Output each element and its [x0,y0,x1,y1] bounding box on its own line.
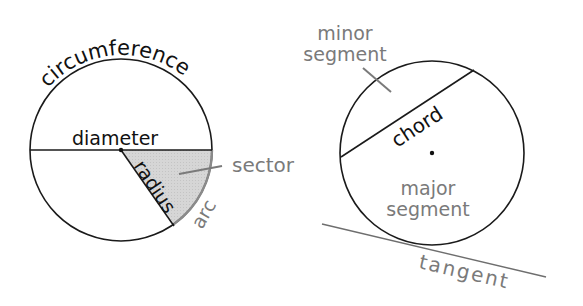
minor-segment-label-line2: segment [303,43,386,65]
major-segment-label-line1: major [401,177,456,199]
minor-segment-label-line1: minor [317,22,372,44]
tangent-label: tangent [417,249,512,293]
circle-parts-diagram: circumference diameter radius sector arc… [0,0,583,306]
major-segment-label-line2: segment [386,198,469,220]
circumference-label: circumference [34,36,195,92]
chord-label: chord [387,101,447,152]
right-circle-group: minor segment chord major segment tangen… [303,22,546,294]
diameter-label: diameter [72,127,158,149]
sector-label: sector [232,153,295,177]
left-circle-group: circumference diameter radius sector arc [30,36,295,241]
right-center-dot [430,151,434,155]
